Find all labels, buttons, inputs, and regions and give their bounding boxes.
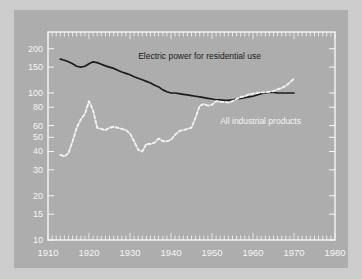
chart-figure: 1015203040506080100150200191019201930194… [0,0,362,279]
y-axis-tick-label: 20 [33,191,43,201]
y-axis-tick-label: 200 [28,44,43,54]
y-axis-tick-label: 100 [28,88,43,98]
series-line-electric-power [60,59,294,100]
industrial-products-label: All industrial products [220,116,301,126]
y-tick-group [48,49,335,240]
y-axis-tick-label: 30 [33,165,43,175]
x-axis-tick-label: 1980 [324,247,345,258]
y-axis-tick-label: 60 [33,121,43,131]
x-axis-tick-label: 1920 [78,247,99,258]
y-axis-tick-label: 10 [33,235,43,245]
y-axis-tick-label: 80 [33,102,43,112]
x-axis-tick-label: 1970 [283,247,304,258]
y-axis-tick-label: 40 [33,146,43,156]
y-axis-tick-label: 150 [28,62,43,72]
x-axis-tick-label: 1950 [201,247,222,258]
y-axis-tick-label: 15 [33,209,43,219]
y-axis-tick-label: 50 [33,132,43,142]
x-axis-tick-label: 1930 [119,247,140,258]
x-axis-tick-label: 1960 [242,247,263,258]
chart-canvas: 1015203040506080100150200191019201930194… [0,0,362,279]
x-axis-tick-label: 1940 [160,247,181,258]
electric-power-label: Electric power for residential use [138,51,261,61]
x-axis-tick-label: 1910 [37,247,58,258]
